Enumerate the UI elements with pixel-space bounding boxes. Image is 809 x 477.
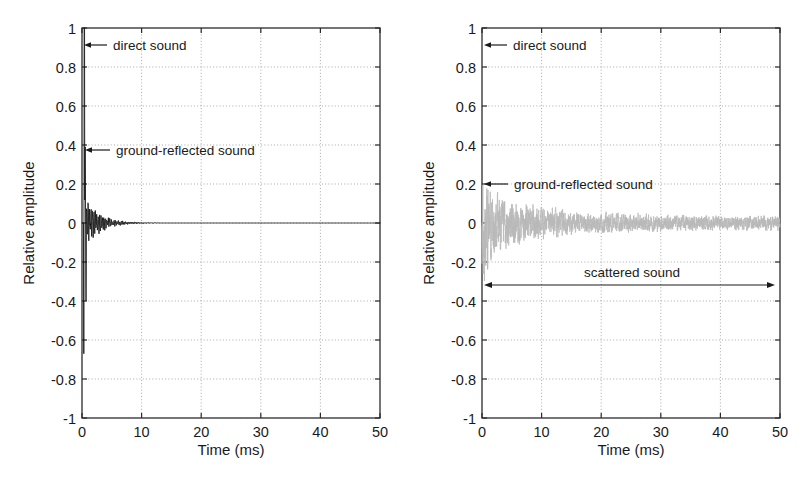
right-y-ticklabel-0: 0 (468, 216, 476, 232)
right-y-ticklabel-0.2: 0.2 (456, 177, 476, 193)
right-x-ticklabel-20: 20 (593, 424, 609, 440)
left-x-axis-title: Time (ms) (198, 441, 265, 458)
right-y-ticklabel-1: 1 (468, 21, 476, 37)
left-y-ticklabel--0.4: -0.4 (51, 294, 76, 310)
direct-sound-arrow-head-icon (84, 42, 91, 48)
left-y-axis-title: Relative amplitude (20, 161, 37, 284)
right-panel: 1 0.8 0.6 0.4 0.2 0 -0.2 -0.4 -0.6 -0.8 … (420, 21, 788, 458)
right-x-ticklabel-10: 10 (534, 424, 550, 440)
left-y-ticklabel--0.6: -0.6 (51, 333, 76, 349)
left-y-ticklabel--0.8: -0.8 (51, 372, 76, 388)
figure-svg: 1 0.8 0.6 0.4 0.2 0 -0.2 -0.4 -0.6 -0.8 … (0, 0, 809, 477)
left-y-ticklabel-0.6: 0.6 (56, 99, 76, 115)
right-ground-reflected-label: ground-reflected sound (514, 177, 653, 192)
right-annotation-scattered-sound: scattered sound (484, 265, 775, 288)
left-annotation-ground-reflected-sound: ground-reflected sound (85, 143, 255, 158)
right-y-ticklabel--0.6: -0.6 (451, 333, 476, 349)
right-annotation-direct-sound: direct sound (484, 38, 587, 53)
left-ground-reflected-label: ground-reflected sound (116, 143, 255, 158)
right-y-ticklabel--0.2: -0.2 (451, 255, 476, 271)
right-x-ticklabel-30: 30 (653, 424, 669, 440)
left-y-ticklabel-0.4: 0.4 (56, 138, 76, 154)
left-x-ticklabel-0: 0 (78, 424, 86, 440)
left-panel-waveform (82, 28, 380, 354)
scattered-sound-arrow-head-right-icon (767, 282, 775, 288)
right-scattered-sound-label: scattered sound (584, 265, 680, 280)
left-x-ticklabel-30: 30 (253, 424, 269, 440)
right-x-ticklabel-0: 0 (478, 424, 486, 440)
ground-reflected-arrow-head-icon (484, 181, 491, 187)
left-y-ticklabel--1: -1 (63, 411, 76, 427)
direct-sound-arrow-head-icon (484, 42, 491, 48)
scattered-sound-arrow-head-left-icon (484, 282, 492, 288)
right-y-ticklabel-0.4: 0.4 (456, 138, 476, 154)
left-y-ticklabel-0: 0 (68, 216, 76, 232)
right-y-ticklabel-0.6: 0.6 (456, 99, 476, 115)
left-x-ticklabel-40: 40 (312, 424, 328, 440)
left-x-ticklabel-20: 20 (193, 424, 209, 440)
right-direct-sound-label: direct sound (513, 38, 587, 53)
right-annotation-ground-reflected-sound: ground-reflected sound (484, 177, 653, 192)
left-direct-sound-label: direct sound (113, 38, 187, 53)
right-y-ticklabel-0.8: 0.8 (456, 60, 476, 76)
left-y-ticklabel--0.2: -0.2 (51, 255, 76, 271)
left-y-ticklabel-0.8: 0.8 (56, 60, 76, 76)
right-y-axis-title: Relative amplitude (420, 161, 437, 284)
ground-reflected-arrow-head-icon (85, 147, 92, 153)
left-y-ticklabel-0.2: 0.2 (56, 177, 76, 193)
figure-container: 1 0.8 0.6 0.4 0.2 0 -0.2 -0.4 -0.6 -0.8 … (0, 0, 809, 477)
left-x-ticklabel-50: 50 (372, 424, 388, 440)
right-y-ticklabel--1: -1 (463, 411, 476, 427)
left-annotation-direct-sound: direct sound (84, 38, 187, 53)
left-y-ticklabel-1: 1 (68, 21, 76, 37)
right-x-ticklabel-40: 40 (712, 424, 728, 440)
right-x-axis-title: Time (ms) (598, 441, 665, 458)
right-y-ticklabel--0.4: -0.4 (451, 294, 476, 310)
left-panel: 1 0.8 0.6 0.4 0.2 0 -0.2 -0.4 -0.6 -0.8 … (20, 21, 388, 458)
right-y-ticklabel--0.8: -0.8 (451, 372, 476, 388)
left-x-ticklabel-10: 10 (134, 424, 150, 440)
right-x-ticklabel-50: 50 (772, 424, 788, 440)
